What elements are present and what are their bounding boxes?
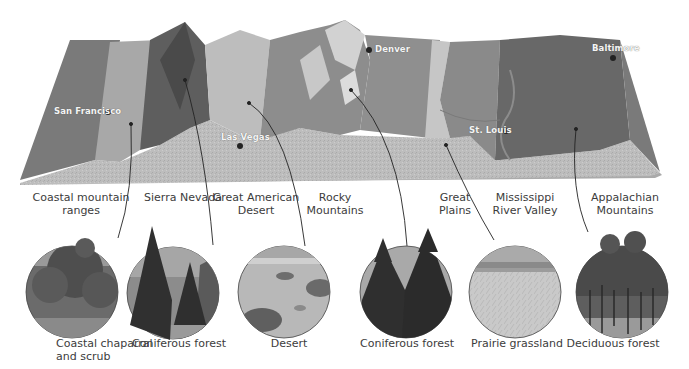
city-label-baltimore: Baltimore <box>592 43 640 53</box>
biome-photo-deciduous-forest <box>576 231 668 340</box>
region-label-appalachian-mountains: Appalachian Mountains <box>591 191 659 217</box>
biome-label-desert: Desert <box>271 337 308 350</box>
city-label-san-francisco: San Francisco <box>54 106 121 116</box>
city-label-denver: Denver <box>375 44 410 54</box>
region-label-rocky-mountains: Rocky Mountains <box>307 191 364 217</box>
biome-label-deciduous-forest: Deciduous forest <box>567 337 660 350</box>
region-label-mississippi-river-valley: Mississippi River Valley <box>493 191 558 217</box>
biome-photo-coniferous-forest-2 <box>360 228 452 340</box>
biome-label-coniferous-forest-2: Coniferous forest <box>360 337 454 350</box>
biome-label-prairie-grassland: Prairie grassland <box>471 337 563 350</box>
region-label-coastal-ranges: Coastal mountain ranges <box>33 191 130 217</box>
region-label-great-plains: Great Plains <box>439 191 471 217</box>
biome-photo-chaparral <box>26 238 118 340</box>
biome-photo-prairie-grassland <box>469 246 561 338</box>
region-label-great-american-desert: Great American Desert <box>213 191 299 217</box>
region-label-sierra-nevada: Sierra Nevada <box>144 191 222 204</box>
city-label-las-vegas: Las Vegas <box>221 132 270 142</box>
biome-label-coniferous-forest-1: Coniferous forest <box>132 337 226 350</box>
biome-photo-coniferous-forest-1 <box>127 226 219 340</box>
city-label-st-louis: St. Louis <box>469 125 512 135</box>
biome-diagram: San Francisco Las Vegas Denver St. Louis… <box>0 0 689 369</box>
terrain-illustration <box>0 0 689 369</box>
biome-photo-desert <box>238 246 334 338</box>
